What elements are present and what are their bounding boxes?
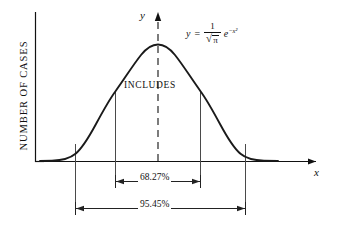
outer-band-label: 95.45%	[138, 199, 171, 209]
radicand: π	[212, 35, 219, 45]
includes-annotation: INCLUDES	[124, 80, 176, 90]
equation-numerator: 1	[207, 22, 218, 32]
inner-band-arrow-right	[192, 179, 200, 184]
equation-lhs: y	[186, 28, 190, 39]
y-axis-arrowhead	[155, 12, 161, 21]
x-axis-letter: x	[314, 166, 319, 178]
equation-annotation: y = 1 √ π e−x²	[186, 22, 237, 45]
exp-power: −x²	[228, 27, 237, 34]
radical-group: √ π	[206, 34, 219, 45]
x-axis-arrowhead	[308, 159, 316, 165]
equation-denominator: √ π	[204, 33, 221, 45]
outer-band-arrow-left	[76, 206, 84, 211]
equation-exponential: e−x²	[224, 27, 238, 39]
y-axis-title: NUMBER OF CASES	[18, 21, 29, 171]
y-axis-letter: y	[140, 9, 145, 21]
figure-canvas	[0, 0, 339, 227]
inner-band-label: 68.27%	[138, 172, 171, 182]
inner-band-arrow-left	[116, 179, 124, 184]
outer-band-arrow-right	[237, 206, 245, 211]
equation-equals: =	[193, 28, 201, 39]
gaussian-curve	[40, 45, 278, 161]
equation-fraction: 1 √ π	[204, 22, 221, 45]
normal-distribution-figure: NUMBER OF CASES y x INCLUDES 68.27% 95.4…	[0, 0, 339, 227]
